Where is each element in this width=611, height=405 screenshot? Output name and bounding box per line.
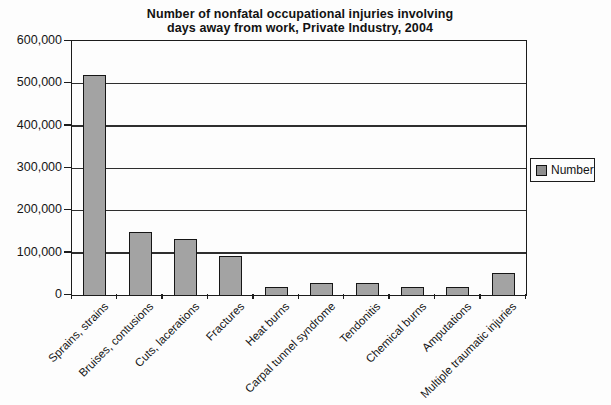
bar-sprains-strains (83, 75, 106, 295)
y-tick-mark-300-000 (64, 167, 71, 169)
y-tick-label-400-000: 400,000 (0, 117, 62, 133)
x-tick-mark-0 (71, 294, 73, 299)
y-tick-mark-100-000 (64, 251, 71, 253)
x-tick-mark-1 (116, 294, 118, 299)
x-tick-mark-7 (388, 294, 390, 299)
plot-area (71, 40, 527, 296)
bar-carpal-tunnel-syndrome (310, 283, 333, 295)
chart-title: Number of nonfatal occupational injuries… (0, 7, 600, 35)
bar-heat-burns (265, 287, 288, 295)
y-tick-label-100-000: 100,000 (0, 244, 62, 260)
chart-title-line-1: Number of nonfatal occupational injuries… (0, 7, 600, 21)
x-tick-mark-4 (252, 294, 254, 299)
legend: Number (530, 158, 595, 182)
y-tick-label-200-000: 200,000 (0, 201, 62, 217)
y-tick-mark-600-000 (64, 40, 71, 42)
y-tick-label-0: 0 (0, 286, 62, 302)
bar-fractures (219, 256, 242, 295)
x-tick-mark-10 (525, 294, 527, 299)
y-tick-mark-400-000 (64, 124, 71, 126)
x-tick-mark-3 (207, 294, 209, 299)
bar-multiple-traumatic-injuries (492, 273, 515, 295)
bar-chemical-burns (401, 287, 424, 295)
x-tick-mark-2 (161, 294, 163, 299)
gridline-300000 (72, 168, 526, 170)
gridline-200000 (72, 210, 526, 212)
legend-series-label: Number (551, 163, 594, 177)
chart-title-line-2: days away from work, Private Industry, 2… (0, 21, 600, 35)
x-tick-mark-8 (434, 294, 436, 299)
gridline-400000 (72, 125, 526, 127)
y-tick-label-500-000: 500,000 (0, 74, 62, 90)
bar-tendonitis (356, 283, 379, 295)
x-tick-mark-9 (479, 294, 481, 299)
x-tick-mark-6 (343, 294, 345, 299)
y-tick-label-600-000: 600,000 (0, 32, 62, 48)
y-tick-mark-500-000 (64, 82, 71, 84)
bar-cuts-lacerations (174, 239, 197, 295)
bar-bruises-contusions (129, 232, 152, 296)
bar-amputations (446, 287, 469, 295)
x-tick-mark-5 (298, 294, 300, 299)
chart-page: Number of nonfatal occupational injuries… (0, 0, 611, 405)
y-tick-label-300-000: 300,000 (0, 159, 62, 175)
y-tick-mark-200-000 (64, 209, 71, 211)
gridline-500000 (72, 83, 526, 85)
legend-series-swatch-icon (536, 165, 547, 176)
